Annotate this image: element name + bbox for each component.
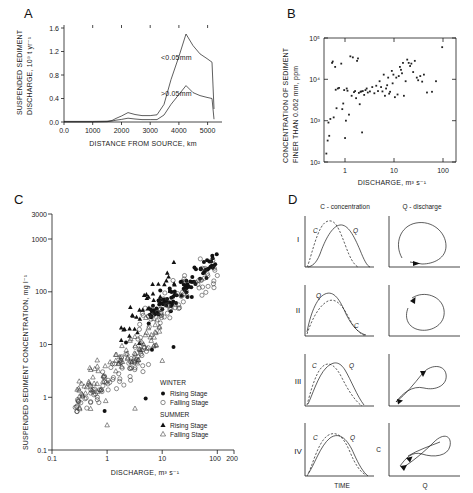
data-point: [157, 329, 162, 333]
panel-a: A SUSPENDED SEDIMENT DISCHARGE, 10⁹ t yr…: [0, 0, 232, 190]
data-point: [402, 62, 404, 64]
data-point: [392, 82, 394, 84]
panel-a-ytick-1: 0.4: [49, 95, 59, 102]
data-point: [403, 95, 405, 97]
data-point: [91, 375, 96, 379]
panel-b-xtick-1: 10: [390, 167, 398, 174]
data-point: [190, 295, 194, 299]
panel-d-label: D: [288, 192, 297, 207]
data-point: [95, 364, 100, 368]
panel-d-row-4: IV C Q C: [294, 423, 460, 476]
data-point: [417, 79, 419, 81]
data-point: [158, 294, 163, 298]
data-point: [181, 300, 185, 304]
panel-d-row-2-numeral: II: [296, 306, 300, 315]
data-point: [359, 103, 361, 105]
data-point: [399, 66, 401, 68]
panel-c-xtick-4: 200: [226, 455, 238, 462]
panel-b-ytick-1: 10³: [310, 117, 321, 124]
legend-winter-title: WINTER: [160, 379, 186, 386]
data-point: [127, 326, 132, 330]
panel-b-xlabel: DISCHARGE, m³ s⁻¹: [358, 179, 427, 186]
data-point: [414, 60, 416, 62]
data-point: [357, 58, 359, 60]
data-point: [165, 311, 169, 315]
data-point: [371, 86, 373, 88]
data-point: [393, 74, 395, 76]
panel-d-row-4-numeral: IV: [294, 447, 302, 456]
data-point: [122, 383, 126, 387]
data-point: [340, 63, 342, 65]
data-point: [215, 252, 219, 256]
data-point: [169, 296, 173, 300]
panel-d-plot: C - concentration Q - discharge I C Q II…: [250, 188, 473, 493]
legend-summer-rising: Rising Stage: [170, 422, 208, 430]
panel-b-yticks: 10² 10³ 10⁴ 10⁵: [309, 35, 456, 166]
panel-d-row-4-ylabel: C: [376, 446, 381, 453]
data-point: [213, 262, 217, 266]
panel-a-ytick-3: 1.2: [49, 48, 59, 55]
data-point: [160, 358, 165, 362]
panel-b-ylabel-line2: FINER THAN 0.062 mm, ppm: [292, 66, 300, 163]
panel-a-plot: SUSPENDED SEDIMENT DISCHARGE, 10⁹ t yr⁻¹…: [0, 0, 232, 185]
panel-b-xtick-0: 1: [343, 167, 347, 174]
panel-a-curve-fine: [64, 34, 214, 121]
data-point: [388, 93, 390, 95]
panel-a-label: A: [24, 6, 33, 21]
panel-c: C SUSPENDED SEDIMENT CONCENTRATION, mg l…: [0, 188, 250, 493]
data-point: [150, 282, 155, 286]
data-point: [75, 409, 79, 413]
data-point: [95, 358, 100, 362]
data-point: [204, 290, 208, 294]
data-point: [325, 153, 327, 155]
data-point: [83, 397, 87, 401]
data-point: [335, 89, 337, 91]
data-point: [158, 288, 162, 292]
panel-b-label: B: [287, 6, 296, 21]
panel-a-annotation-coarse: >0.05mm: [161, 90, 192, 97]
data-point: [168, 316, 172, 320]
data-point: [373, 92, 375, 94]
data-point: [423, 74, 425, 76]
data-point: [431, 91, 433, 93]
panel-a-xticks: 0.0 1000 2000 3000 4000 5000: [59, 25, 215, 134]
data-point: [327, 140, 329, 142]
data-point: [421, 81, 423, 83]
data-point: [162, 282, 167, 286]
data-point: [101, 384, 105, 388]
data-point: [206, 284, 210, 288]
panel-d-row-4-label-c: C: [313, 434, 318, 441]
data-point: [138, 322, 142, 326]
data-point: [382, 91, 384, 93]
data-point: [348, 114, 350, 116]
data-point: [119, 338, 124, 342]
panel-c-ytick-3: 100: [35, 288, 47, 295]
data-point: [398, 75, 400, 77]
panel-a-xtick-3: 3000: [142, 127, 158, 134]
data-point: [187, 285, 191, 289]
data-point: [128, 305, 133, 309]
panel-a-ytick-2: 0.8: [49, 72, 59, 79]
data-point: [343, 89, 345, 91]
data-point: [172, 260, 177, 264]
panel-a-ytick-0: 0.0: [49, 119, 59, 126]
panel-d-row-1-label-q: Q: [353, 227, 358, 235]
panel-c-xticks: 0.1 1 10 100 200: [47, 450, 238, 462]
data-point: [92, 366, 97, 370]
data-point: [201, 271, 205, 275]
data-point: [156, 282, 161, 286]
data-point: [141, 364, 145, 368]
data-point: [362, 90, 364, 92]
data-point: [383, 74, 385, 76]
panel-c-label: C: [14, 192, 23, 207]
data-point: [158, 321, 162, 325]
data-point: [198, 257, 202, 261]
panel-a-xtick-4: 4000: [171, 127, 187, 134]
panel-c-ylabel: SUSPENDED SEDIMENT CONCENTRATION, mg l⁻¹: [22, 274, 30, 450]
data-point: [117, 379, 121, 383]
data-point: [366, 88, 368, 90]
data-point: [164, 278, 169, 282]
data-point: [172, 345, 176, 349]
data-point: [391, 70, 393, 72]
data-point: [408, 62, 410, 64]
